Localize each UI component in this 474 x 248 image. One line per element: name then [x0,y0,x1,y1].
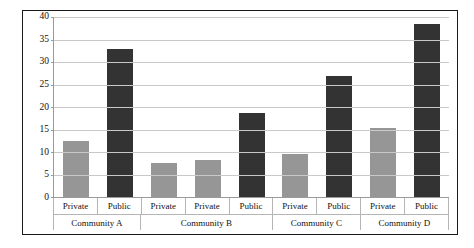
group-label-1: Community B [141,215,273,230]
y-tickmark-0 [51,197,54,198]
gridline-10 [54,152,449,153]
category-label-4: Public [230,198,274,215]
y-tickmark-25 [51,85,54,86]
bar-public-4 [239,113,265,197]
y-tick-label-40: 40 [40,12,50,22]
gridline-40 [54,17,449,18]
y-tick-label-15: 15 [40,125,50,135]
category-label-row: PrivatePublicPrivatePrivatePublicPrivate… [53,198,449,215]
bar-private-7 [370,128,396,197]
y-tick-label-20: 20 [40,103,50,113]
gridline-5 [54,175,449,176]
group-label-row: Community ACommunity BCommunity CCommuni… [53,215,449,230]
category-axis: PrivatePublicPrivatePrivatePublicPrivate… [27,198,449,230]
bar-public-6 [326,76,352,197]
y-tickmark-40 [51,17,54,18]
bar-private-2 [151,163,177,197]
category-label-2: Private [142,198,186,215]
y-tickmark-30 [51,62,54,63]
y-tickmark-20 [51,107,54,108]
group-label-3: Community D [361,215,449,230]
gridline-15 [54,130,449,131]
y-tick-label-30: 30 [40,58,50,68]
y-tick-label-10: 10 [40,148,50,158]
y-tick-label-5: 5 [44,171,49,181]
y-tickmark-15 [51,130,54,131]
category-label-7: Private [361,198,405,215]
group-label-0: Community A [53,215,141,230]
category-label-1: Public [98,198,142,215]
gridline-35 [54,40,449,41]
y-tickmark-10 [51,152,54,153]
plot-row: 4035302520151050 [27,17,449,198]
y-tick-label-0: 0 [44,193,49,203]
category-label-3: Private [186,198,230,215]
category-label-8: Public [405,198,449,215]
gridline-20 [54,107,449,108]
plot-area [53,17,449,198]
y-tickmark-5 [51,175,54,176]
bar-chart-figure: 4035302520151050 PrivatePublicPrivatePri… [22,10,458,235]
y-tickmark-35 [51,40,54,41]
y-axis: 4035302520151050 [27,17,53,198]
y-tick-label-25: 25 [40,80,50,90]
bar-private-3 [195,160,221,197]
bar-private-0 [63,141,89,197]
gridline-25 [54,85,449,86]
y-tick-label-35: 35 [40,35,50,45]
chart-inner: 4035302520151050 PrivatePublicPrivatePri… [23,11,457,234]
gridline-30 [54,62,449,63]
category-label-0: Private [53,198,98,215]
bar-public-8 [414,24,440,197]
category-label-6: Public [317,198,361,215]
group-label-2: Community C [273,215,361,230]
category-label-5: Private [273,198,317,215]
bar-private-5 [282,154,308,197]
